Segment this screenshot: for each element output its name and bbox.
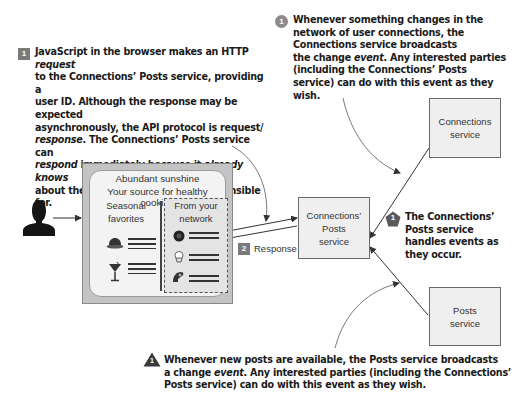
user-silhouette-icon: [22, 199, 56, 237]
service-label-line: service: [307, 235, 362, 248]
service-label-line: Posts: [450, 304, 480, 317]
heading-line: favorites: [94, 212, 158, 225]
annotation-line: they occur.: [405, 249, 520, 262]
posts-callout-curve: [335, 283, 399, 348]
annotation-line: the change event. Any interested parties: [293, 52, 521, 65]
annotation-line: Posts service) can do with this event as…: [164, 379, 521, 392]
web-page: Abundant sunshine Your source for health…: [89, 170, 226, 297]
posts-service: Posts service: [429, 287, 501, 346]
annotation-line: network of user connections, the: [293, 27, 521, 40]
heading-line: From your: [165, 199, 227, 212]
posts-event-badge: 1: [143, 357, 161, 364]
browser-mockup: Abundant sunshine Your source for health…: [82, 163, 233, 304]
annotation-line: Posts service: [405, 224, 520, 237]
site-title: Abundant sunshine: [90, 173, 225, 184]
connections-service: Connections service: [429, 98, 501, 158]
step-2-badge: 2: [238, 243, 250, 255]
annotation-line: handles events as: [405, 236, 520, 249]
service-label-line: Connections’: [307, 209, 362, 222]
cake-icon: [106, 237, 124, 249]
connections-callout-curve: [343, 98, 400, 173]
from-your-network-heading: From your network: [165, 199, 227, 225]
network-text-lines: [189, 254, 219, 264]
handles-events-badge: 1: [385, 213, 401, 222]
annotation-line: Whenever something changes in the: [293, 14, 521, 27]
connections-event-badge: 1: [275, 15, 288, 28]
service-label-line: Connections: [439, 115, 492, 128]
annotation-line: Connections service broadcasts: [293, 39, 521, 52]
network-text-lines: [189, 232, 219, 242]
column-divider: [160, 201, 162, 291]
request-annotation-line: asynchronously, the API protocol is requ…: [35, 122, 265, 135]
heading-line: Seasonal: [94, 199, 158, 212]
connections-posts-service: Connections’ Posts service: [298, 197, 370, 259]
response-arrow: [224, 226, 297, 239]
request-annotation-line: to the Connections’ Posts service, provi…: [35, 71, 265, 96]
handles-events-annotation: The Connections’ Posts service handles e…: [405, 211, 520, 261]
annotation-line: Whenever new posts are available, the Po…: [164, 354, 521, 367]
request-annotation-line: user ID. Although the response may be ex…: [35, 96, 265, 121]
response-label: Response: [254, 243, 297, 254]
heading-line: network: [165, 212, 227, 225]
request-arrow: [223, 218, 297, 232]
annotation-line: (including the Connections’ Posts: [293, 64, 521, 77]
service-label-line: service: [450, 317, 480, 330]
service-label-line: Posts: [307, 222, 362, 235]
cupcake-icon: [173, 251, 185, 263]
annotation-line: The Connections’: [405, 211, 520, 224]
cocktail-icon: [108, 262, 122, 282]
pastry-icon: [172, 271, 185, 283]
favorite-text-lines: [128, 238, 156, 252]
network-section: From your network: [164, 198, 228, 293]
annotation-line: a change event. Any interested parties (…: [164, 367, 521, 380]
seasonal-favorites-heading: Seasonal favorites: [94, 199, 158, 225]
posts-event-annotation: Whenever new posts are available, the Po…: [164, 354, 521, 392]
service-label-line: service: [439, 128, 492, 141]
connections-event-annotation: Whenever something changes in the networ…: [293, 14, 521, 102]
step-1-badge: 1: [18, 48, 30, 60]
request-annotation-line: response. The Connections’ Posts service…: [35, 134, 265, 159]
avatar-icon: [173, 230, 185, 242]
network-text-lines: [189, 275, 219, 285]
favorite-text-lines: [128, 263, 156, 277]
request-annotation-line: JavaScript in the browser makes an HTTP …: [35, 46, 265, 71]
